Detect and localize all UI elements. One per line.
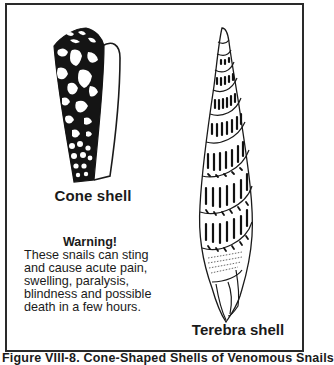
terebra-shell-label: Terebra shell — [178, 321, 298, 338]
terebra-shell-illustration — [186, 26, 266, 326]
figure-caption: Figure VIII-8. Cone-Shaped Shells of Ven… — [2, 351, 334, 365]
cone-shell-illustration — [50, 24, 130, 184]
cone-shell-label: Cone shell — [40, 187, 146, 204]
warning-box: Warning! These snails can sting and caus… — [24, 236, 156, 314]
warning-body: These snails can sting and cause acute p… — [24, 249, 156, 314]
